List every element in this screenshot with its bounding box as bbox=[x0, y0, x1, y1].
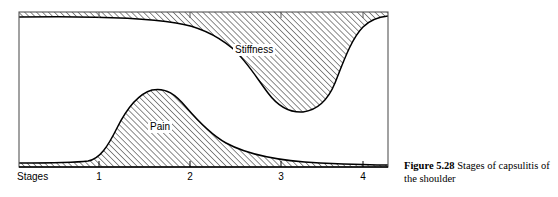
pain-curve-label: Pain bbox=[148, 121, 172, 133]
x-tick-label-2: 2 bbox=[180, 171, 200, 183]
capsulitis-stages-chart bbox=[0, 0, 400, 197]
x-tick-label-1: 1 bbox=[89, 171, 109, 183]
stiffness-curve-label: Stiffness bbox=[233, 44, 275, 56]
figure-caption: Figure 5.28 Stages of capsulitis of the … bbox=[404, 160, 556, 185]
x-tick-label-4: 4 bbox=[353, 171, 373, 183]
chart-figure: Stiffness Pain Stages 1 2 3 4 bbox=[0, 0, 400, 197]
x-axis-label: Stages bbox=[17, 171, 48, 183]
figure-container: Stiffness Pain Stages 1 2 3 4 Figure 5.2… bbox=[0, 0, 558, 197]
x-tick-label-3: 3 bbox=[271, 171, 291, 183]
figure-caption-number: Figure 5.28 bbox=[404, 160, 455, 171]
